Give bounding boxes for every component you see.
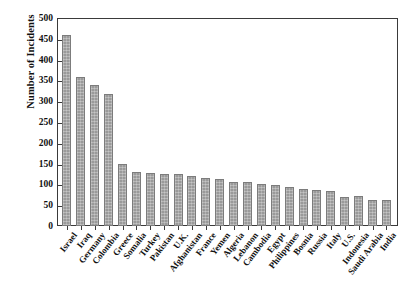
y-tick-label: 450 [39,35,58,45]
y-tick-label: 250 [39,118,58,128]
y-tick-mark [58,40,62,41]
y-tick-label: 150 [39,160,58,170]
x-tick-mark [109,226,110,230]
x-tick-mark [261,226,262,230]
x-tick-mark [345,226,346,230]
y-tick-label: 500 [39,14,58,24]
x-tick-mark [123,226,124,230]
x-tick-mark [67,226,68,230]
x-tick-mark [95,226,96,230]
y-tick-mark [58,61,62,62]
y-tick-mark [58,144,62,145]
y-tick-mark [58,185,62,186]
plot-area: 050100150200250300350400450500 [57,18,398,226]
y-tick-mark [58,81,62,82]
x-tick-mark [331,226,332,230]
x-tick-mark [248,226,249,230]
y-tick-mark [58,102,62,103]
x-tick-mark [275,226,276,230]
y-tick-mark [58,206,62,207]
bar-chart-figure: Number of Incidents 05010015020025030035… [0,0,414,291]
x-tick-mark [178,226,179,230]
x-tick-mark [386,226,387,230]
y-tick-mark [58,123,62,124]
y-tick-label: 100 [39,181,58,191]
x-tick-mark [373,226,374,230]
x-tick-mark [164,226,165,230]
y-tick-label: 350 [39,77,58,87]
x-tick-mark [289,226,290,230]
x-tick-mark [150,226,151,230]
x-tick-mark [136,226,137,230]
x-axis-labels: IsraelIraqGermanyColombiaGreeceSomaliaTu… [57,231,398,291]
y-tick-mark [58,165,62,166]
x-tick-mark [234,226,235,230]
x-tick-mark [303,226,304,230]
x-tick-mark [206,226,207,230]
x-tick-mark [192,226,193,230]
y-tick-label: 200 [39,139,58,149]
x-tick-mark [81,226,82,230]
y-axis-title: Number of Incidents [25,0,36,142]
x-tick-mark [359,226,360,230]
y-tick-label: 50 [44,201,59,211]
x-tick-mark [317,226,318,230]
y-tick-label: 400 [39,56,58,66]
x-tick-mark [220,226,221,230]
y-tick-label: 300 [39,97,58,107]
